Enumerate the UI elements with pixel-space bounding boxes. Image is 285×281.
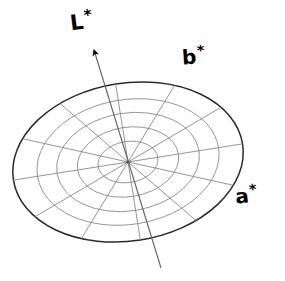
- axis-label-b-letter: b: [181, 44, 197, 69]
- axis-label-b: b*: [181, 42, 206, 69]
- axis-label-a-letter: a: [234, 183, 250, 208]
- axis-label-b-star: *: [196, 42, 205, 58]
- axis-label-lightness: L*: [68, 6, 93, 36]
- lab-diagram-canvas: [0, 0, 285, 281]
- axis-label-a-star: *: [248, 181, 257, 198]
- cielab-figure: L* b* a*: [0, 0, 285, 281]
- axis-label-a: a*: [234, 181, 259, 209]
